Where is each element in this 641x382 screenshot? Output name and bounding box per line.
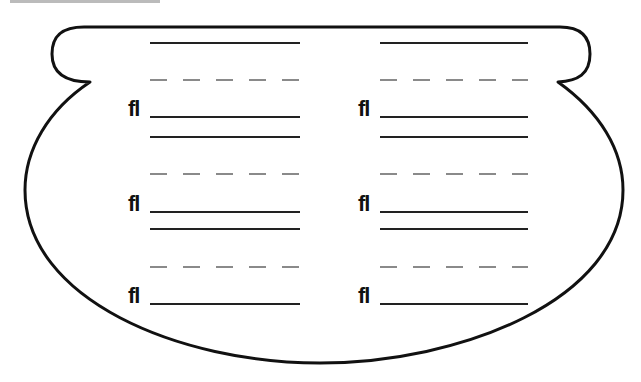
blend-label: fl bbox=[128, 98, 139, 120]
answer-line[interactable] bbox=[150, 116, 300, 118]
midline-dashed bbox=[380, 173, 528, 175]
writing-line[interactable] bbox=[150, 228, 300, 230]
answer-line[interactable] bbox=[380, 116, 528, 118]
midline-dashed bbox=[380, 79, 528, 81]
answer-line[interactable] bbox=[150, 211, 300, 213]
blend-label: fl bbox=[128, 285, 139, 307]
answer-line[interactable] bbox=[380, 303, 528, 305]
writing-line[interactable] bbox=[150, 42, 300, 44]
writing-line[interactable] bbox=[380, 42, 528, 44]
midline-dashed bbox=[150, 79, 300, 81]
answer-line[interactable] bbox=[380, 211, 528, 213]
blend-label: fl bbox=[358, 193, 369, 215]
answer-line[interactable] bbox=[150, 303, 300, 305]
pot-outline bbox=[0, 0, 641, 382]
blend-label: fl bbox=[358, 98, 369, 120]
blend-label: fl bbox=[128, 193, 139, 215]
midline-dashed bbox=[380, 266, 528, 268]
writing-line[interactable] bbox=[150, 136, 300, 138]
midline-dashed bbox=[150, 266, 300, 268]
midline-dashed bbox=[150, 173, 300, 175]
writing-line[interactable] bbox=[380, 136, 528, 138]
blend-label: fl bbox=[358, 285, 369, 307]
writing-line[interactable] bbox=[380, 228, 528, 230]
